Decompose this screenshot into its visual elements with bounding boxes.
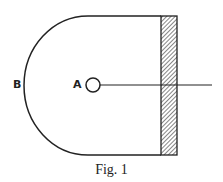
label-A: A xyxy=(73,78,82,91)
label-B: B xyxy=(13,78,21,91)
figure-diagram xyxy=(0,0,223,182)
figure-caption: Fig. 1 xyxy=(0,162,223,178)
circle-A xyxy=(86,78,100,92)
